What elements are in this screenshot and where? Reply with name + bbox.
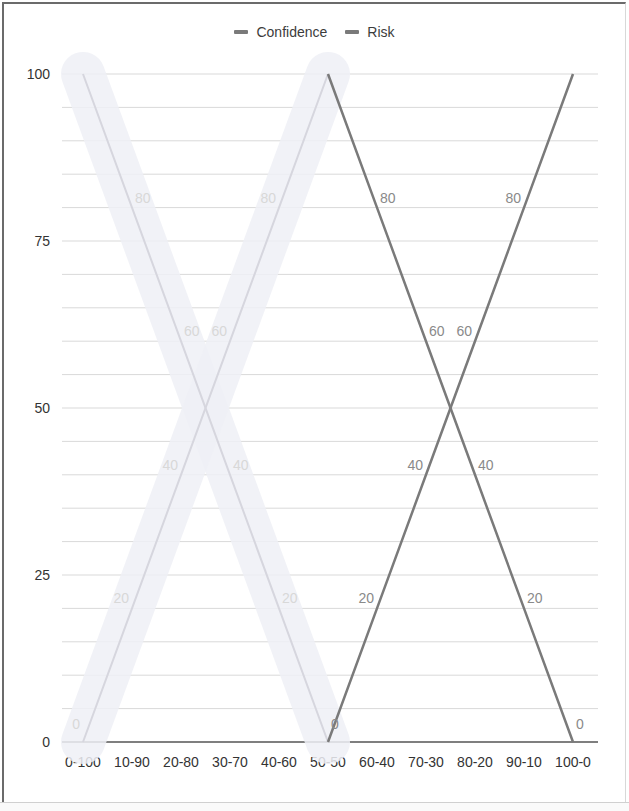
x-tick-label: 80-20: [457, 754, 493, 770]
data-label: 60: [429, 323, 445, 339]
data-label: 80: [505, 190, 521, 206]
data-label: 40: [233, 457, 249, 473]
x-tick-label: 20-80: [163, 754, 199, 770]
data-label: 80: [380, 190, 396, 206]
data-label: 40: [407, 457, 423, 473]
x-tick-label: 30-70: [212, 754, 248, 770]
x-tick-label: 40-60: [261, 754, 297, 770]
data-label: 20: [527, 590, 543, 606]
data-label: 60: [211, 323, 227, 339]
data-label: 20: [358, 590, 374, 606]
y-tick-label: 25: [34, 567, 50, 583]
x-tick-label: 100-0: [555, 754, 591, 770]
data-label: 80: [135, 190, 151, 206]
data-label: 40: [478, 457, 494, 473]
data-label: 60: [184, 323, 200, 339]
data-label: 20: [113, 590, 129, 606]
x-tick-label: 70-30: [408, 754, 444, 770]
x-tick-label: 10-90: [114, 754, 150, 770]
x-tick-label: 90-10: [506, 754, 542, 770]
data-label: 0: [72, 716, 80, 732]
data-label: 20: [282, 590, 298, 606]
data-label: 0: [331, 716, 339, 732]
data-label: 0: [576, 716, 584, 732]
y-tick-label: 100: [27, 66, 51, 82]
y-tick-label: 50: [34, 400, 50, 416]
data-label: 80: [260, 190, 276, 206]
data-label: 60: [456, 323, 472, 339]
y-tick-label: 0: [42, 734, 50, 750]
x-tick-label: 60-40: [359, 754, 395, 770]
data-label: 40: [162, 457, 178, 473]
y-tick-label: 75: [34, 233, 50, 249]
